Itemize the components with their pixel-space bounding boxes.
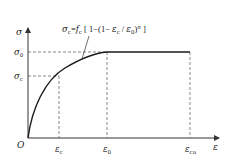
stress-strain-curve (28, 52, 190, 138)
x-axis-label: ε (213, 142, 218, 152)
y-axis-label: σ (16, 27, 23, 37)
y-tick-sigma0: σ0 (14, 47, 24, 58)
stress-strain-diagram: σc=fc [ 1−(1− εc / ε0)n ] σ ε O σ0 σc εc… (0, 0, 233, 164)
x-tick-epscu: εcu (185, 144, 197, 155)
x-tick-eps0: ε0 (103, 144, 112, 155)
formula: σc=fc [ 1−(1− εc / ε0)n ] (62, 24, 146, 35)
formula-leader-line (82, 36, 89, 59)
x-tick-epsc: εc (55, 144, 63, 155)
y-tick-sigmac: σc (14, 71, 23, 82)
origin-label: O (17, 140, 25, 150)
